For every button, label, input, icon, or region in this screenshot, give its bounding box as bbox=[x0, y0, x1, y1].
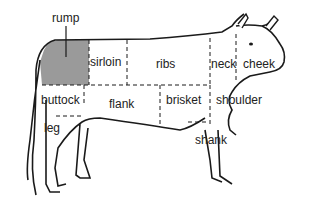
label-shank: shank bbox=[195, 134, 227, 146]
label-rump: rump bbox=[52, 12, 79, 24]
label-brisket: brisket bbox=[166, 94, 201, 106]
label-buttock: buttock bbox=[41, 94, 80, 106]
label-cheek: cheek bbox=[243, 58, 275, 70]
label-sirloin: sirloin bbox=[90, 56, 121, 68]
eye bbox=[249, 43, 253, 46]
label-flank: flank bbox=[109, 98, 134, 110]
label-shoulder: shoulder bbox=[216, 94, 262, 106]
label-leg: leg bbox=[44, 122, 60, 134]
horn-right bbox=[266, 16, 278, 30]
label-ribs: ribs bbox=[156, 58, 175, 70]
label-neck: neck bbox=[211, 58, 236, 70]
rump-region bbox=[40, 40, 89, 85]
